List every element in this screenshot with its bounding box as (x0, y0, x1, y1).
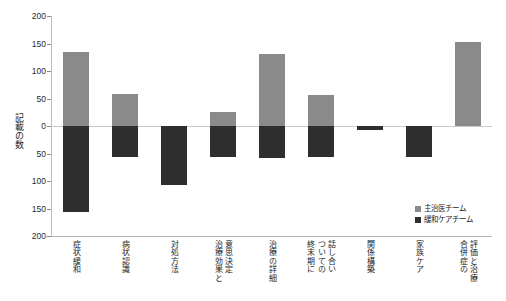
x-axis-category-label: 意思決定治療効果と (212, 240, 234, 298)
category-label-line: 評価と治療 (468, 240, 478, 298)
y-axis-tick-mark (47, 209, 51, 210)
bar-group (112, 16, 138, 236)
bar-segment (406, 126, 432, 157)
y-axis-tick-mark (47, 71, 51, 72)
bar-group (63, 16, 89, 236)
y-axis-tick-labels: 20015010050050100150200 (22, 0, 46, 301)
bar-group (210, 16, 236, 236)
y-axis-tick-mark (47, 44, 51, 45)
x-axis-category-label: 治療の詳細 (265, 240, 279, 298)
category-label-line: 治療の詳細 (267, 240, 277, 298)
legend-swatch-palliative-team (415, 217, 421, 223)
x-axis-category-label: 家族ケア (412, 240, 426, 298)
y-axis-tick-mark (47, 126, 51, 127)
category-label-line: 合併症の (458, 240, 468, 298)
x-axis-category-label: 関係構築 (363, 240, 377, 298)
y-axis-tick-mark (47, 154, 51, 155)
y-axis-tick-mark (47, 181, 51, 182)
category-label-line: 意思決定 (223, 240, 233, 298)
bar-chart: 記載の数 20015010050050100150200 症状緩和病状認識対処方… (0, 0, 506, 301)
y-axis-tick-mark (47, 16, 51, 17)
legend-item-0: 主治医チーム (415, 203, 473, 214)
bar-segment (455, 42, 481, 126)
bar-segment (210, 126, 236, 157)
category-label-line: 病状認識 (120, 240, 130, 298)
bar-segment (308, 95, 334, 126)
bar-segment (112, 126, 138, 157)
bar-group (357, 16, 383, 236)
x-axis-category-label: 対処方法 (167, 240, 181, 298)
category-label-line: 治療効果と (213, 240, 223, 298)
bar-segment (259, 54, 285, 126)
category-label-line: 終末期に (305, 240, 315, 298)
x-axis-category-label: 評価と治療合併症の (457, 240, 479, 298)
x-axis-line (44, 236, 492, 237)
y-axis-tick-label: 150 (22, 39, 46, 48)
y-axis-tick-label: 100 (22, 67, 46, 76)
y-axis-tick-label: 0 (22, 122, 46, 131)
y-axis-tick-mark (47, 99, 51, 100)
bar-group (259, 16, 285, 236)
bar-segment (308, 126, 334, 157)
category-label-line: 話し合い (326, 240, 336, 298)
y-axis-tick-label: 200 (22, 12, 46, 21)
y-axis-tick-label: 100 (22, 177, 46, 186)
y-axis-tick-label: 200 (22, 232, 46, 241)
bar-segment (210, 112, 236, 126)
bar-segment (63, 126, 89, 212)
legend-swatch-doctor-team (415, 206, 421, 212)
x-axis-category-label: 症状緩和 (69, 240, 83, 298)
legend: 主治医チーム 緩和ケアチーム (415, 203, 473, 225)
category-label-line: 対処方法 (169, 240, 179, 298)
bar-segment (63, 52, 89, 126)
bar-segment (259, 126, 285, 158)
bar-segment (161, 126, 187, 185)
category-label-line: ついての (316, 240, 326, 298)
x-axis-category-label: 話し合いついての終末期に (304, 240, 337, 298)
bar-segment (112, 94, 138, 126)
bar-segment (357, 126, 383, 130)
legend-item-1: 緩和ケアチーム (415, 214, 473, 225)
x-axis-category-label: 病状認識 (118, 240, 132, 298)
y-axis-tick-mark (47, 236, 51, 237)
legend-label-doctor-team: 主治医チーム (424, 203, 466, 214)
category-label-line: 関係構築 (365, 240, 375, 298)
bar-group (161, 16, 187, 236)
category-label-line: 家族ケア (414, 240, 424, 298)
bar-group (308, 16, 334, 236)
y-axis-tick-label: 50 (22, 94, 46, 103)
y-axis-tick-label: 150 (22, 204, 46, 213)
category-label-line: 症状緩和 (71, 240, 81, 298)
legend-label-palliative-team: 緩和ケアチーム (424, 214, 473, 225)
y-axis-tick-label: 50 (22, 149, 46, 158)
